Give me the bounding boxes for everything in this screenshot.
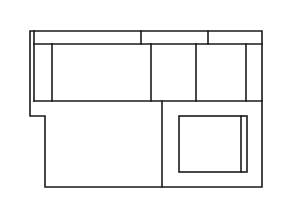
floor-plan-diagram (0, 0, 284, 224)
outer-outline (30, 31, 262, 187)
inner-box (179, 116, 247, 172)
